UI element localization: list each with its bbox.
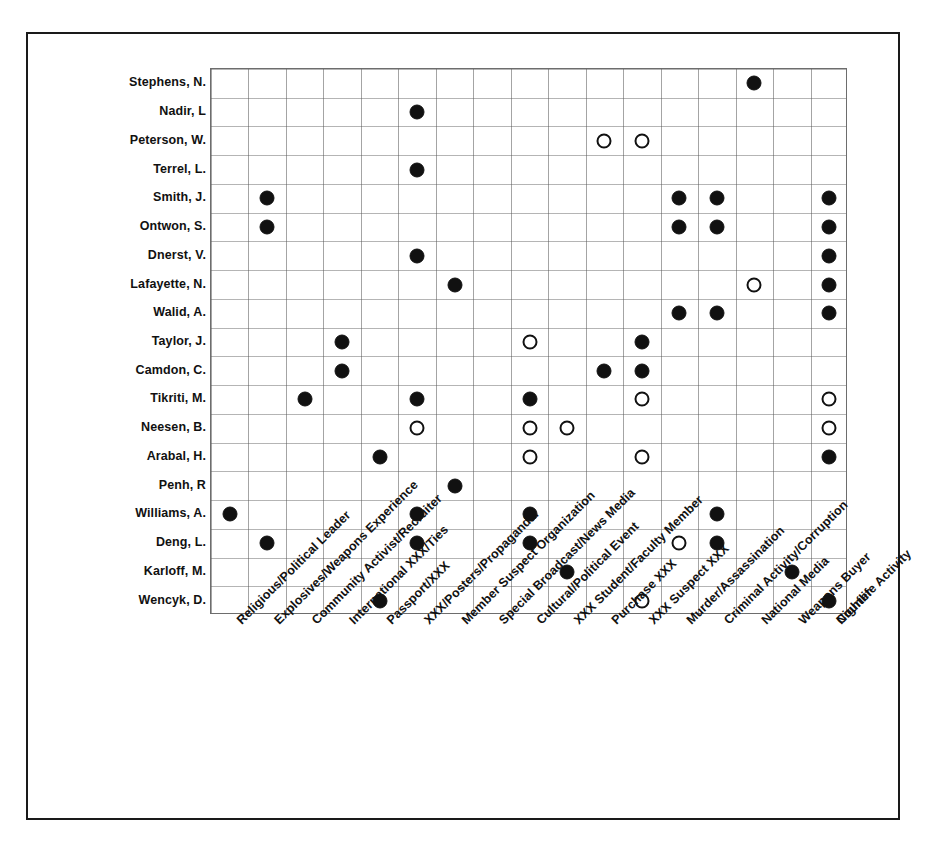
row-label: Williams, A. bbox=[28, 507, 206, 520]
matrix-marker-filled[interactable] bbox=[672, 306, 687, 321]
matrix-marker-filled[interactable] bbox=[410, 392, 425, 407]
matrix-marker-filled[interactable] bbox=[709, 220, 724, 235]
matrix-marker-filled[interactable] bbox=[709, 306, 724, 321]
matrix-marker-filled[interactable] bbox=[634, 363, 649, 378]
matrix-figure: Stephens, N.Nadir, LPeterson, W.Terrel, … bbox=[26, 32, 900, 820]
row-label: Deng, L. bbox=[28, 536, 206, 549]
row-label: Wencyk, D. bbox=[28, 594, 206, 607]
row-label: Terrel, L. bbox=[28, 163, 206, 176]
matrix-marker-filled[interactable] bbox=[709, 191, 724, 206]
matrix-marker-filled[interactable] bbox=[597, 363, 612, 378]
row-label: Smith, J. bbox=[28, 191, 206, 204]
matrix-marker-filled[interactable] bbox=[747, 76, 762, 91]
matrix-marker-filled[interactable] bbox=[447, 277, 462, 292]
row-label: Karloff, M. bbox=[28, 565, 206, 578]
row-label: Stephens, N. bbox=[28, 76, 206, 89]
matrix-marker-open[interactable] bbox=[597, 133, 612, 148]
row-label: Penh, R bbox=[28, 479, 206, 492]
matrix-marker-filled[interactable] bbox=[372, 449, 387, 464]
matrix-marker-open[interactable] bbox=[634, 133, 649, 148]
row-label: Peterson, W. bbox=[28, 134, 206, 147]
row-label: Arabal, H. bbox=[28, 450, 206, 463]
matrix-marker-filled[interactable] bbox=[709, 507, 724, 522]
matrix-marker-filled[interactable] bbox=[260, 536, 275, 551]
matrix-marker-filled[interactable] bbox=[522, 392, 537, 407]
matrix-marker-open[interactable] bbox=[634, 392, 649, 407]
row-label: Nadir, L bbox=[28, 105, 206, 118]
matrix-marker-filled[interactable] bbox=[410, 248, 425, 263]
matrix-marker-filled[interactable] bbox=[335, 363, 350, 378]
matrix-plot-area[interactable] bbox=[210, 68, 847, 614]
matrix-marker-filled[interactable] bbox=[410, 162, 425, 177]
row-label: Neesen, B. bbox=[28, 421, 206, 434]
row-label: Taylor, J. bbox=[28, 335, 206, 348]
matrix-marker-filled[interactable] bbox=[822, 248, 837, 263]
matrix-marker-filled[interactable] bbox=[822, 449, 837, 464]
matrix-marker-filled[interactable] bbox=[672, 220, 687, 235]
row-label: Walid, A. bbox=[28, 306, 206, 319]
matrix-marker-filled[interactable] bbox=[672, 191, 687, 206]
matrix-marker-open[interactable] bbox=[634, 449, 649, 464]
matrix-marker-open[interactable] bbox=[522, 449, 537, 464]
matrix-marker-open[interactable] bbox=[559, 421, 574, 436]
matrix-marker-filled[interactable] bbox=[222, 507, 237, 522]
matrix-marker-filled[interactable] bbox=[447, 478, 462, 493]
matrix-marker-open[interactable] bbox=[522, 421, 537, 436]
row-label: Ontwon, S. bbox=[28, 220, 206, 233]
matrix-marker-filled[interactable] bbox=[297, 392, 312, 407]
row-label: Camdon, C. bbox=[28, 364, 206, 377]
matrix-marker-filled[interactable] bbox=[410, 105, 425, 120]
matrix-marker-filled[interactable] bbox=[822, 306, 837, 321]
matrix-marker-filled[interactable] bbox=[260, 220, 275, 235]
matrix-marker-filled[interactable] bbox=[822, 277, 837, 292]
matrix-marker-open[interactable] bbox=[410, 421, 425, 436]
matrix-marker-open[interactable] bbox=[672, 536, 687, 551]
matrix-marker-open[interactable] bbox=[522, 335, 537, 350]
matrix-marker-open[interactable] bbox=[747, 277, 762, 292]
matrix-marker-filled[interactable] bbox=[260, 191, 275, 206]
row-label: Dnerst, V. bbox=[28, 249, 206, 262]
row-label: Tikriti, M. bbox=[28, 392, 206, 405]
matrix-marker-open[interactable] bbox=[822, 392, 837, 407]
matrix-marker-filled[interactable] bbox=[822, 191, 837, 206]
row-label: Lafayette, N. bbox=[28, 278, 206, 291]
matrix-marker-filled[interactable] bbox=[634, 335, 649, 350]
matrix-marker-filled[interactable] bbox=[335, 335, 350, 350]
matrix-marker-open[interactable] bbox=[822, 421, 837, 436]
column-label-axis: Religious/Political LeaderExplosives/Wea… bbox=[210, 614, 900, 819]
matrix-marker-filled[interactable] bbox=[822, 220, 837, 235]
